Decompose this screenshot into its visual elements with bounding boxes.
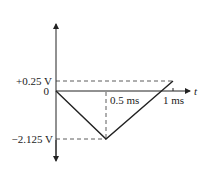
waveform-chart: +0.25 V 0 −2.125 V 0.5 ms 1 ms t: [0, 0, 206, 175]
x-label-half: 0.5 ms: [110, 94, 139, 106]
x-label-one: 1 ms: [163, 94, 184, 106]
y-label-neg: −2.125 V: [12, 133, 54, 145]
waveform-line: [56, 81, 173, 139]
x-axis-title: t: [194, 85, 198, 97]
y-label-zero: 0: [44, 85, 50, 97]
